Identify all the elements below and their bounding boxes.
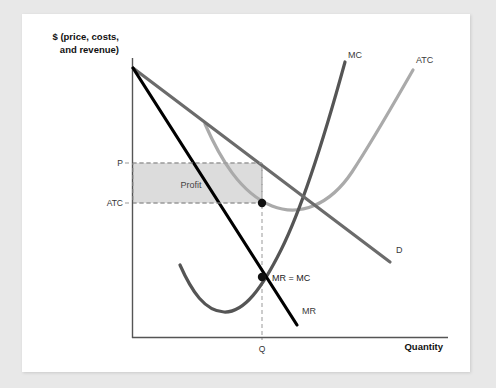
atc-at-q-point xyxy=(258,199,266,207)
profit-region-label: Profit xyxy=(180,180,202,190)
mr-curve-label: MR xyxy=(302,306,316,316)
y-axis-label-line1: $ (price, costs, xyxy=(52,31,119,42)
mr-equals-mc-point xyxy=(258,273,266,281)
page-root: $ (price, costs, and revenue) Quantity P… xyxy=(0,0,496,388)
y-axis-label-line2: and revenue) xyxy=(60,44,119,55)
y-tick-atc: ATC xyxy=(107,198,123,208)
y-tick-price: P xyxy=(117,158,123,168)
x-axis-label: Quantity xyxy=(404,341,443,352)
monopoly-profit-chart: $ (price, costs, and revenue) Quantity P… xyxy=(0,0,496,388)
mr-equals-mc-label: MR = MC xyxy=(272,273,311,283)
mc-curve-label: MC xyxy=(348,50,362,60)
atc-curve-label: ATC xyxy=(416,55,434,65)
demand-curve-label: D xyxy=(396,245,403,255)
x-tick-quantity: Q xyxy=(259,344,266,354)
